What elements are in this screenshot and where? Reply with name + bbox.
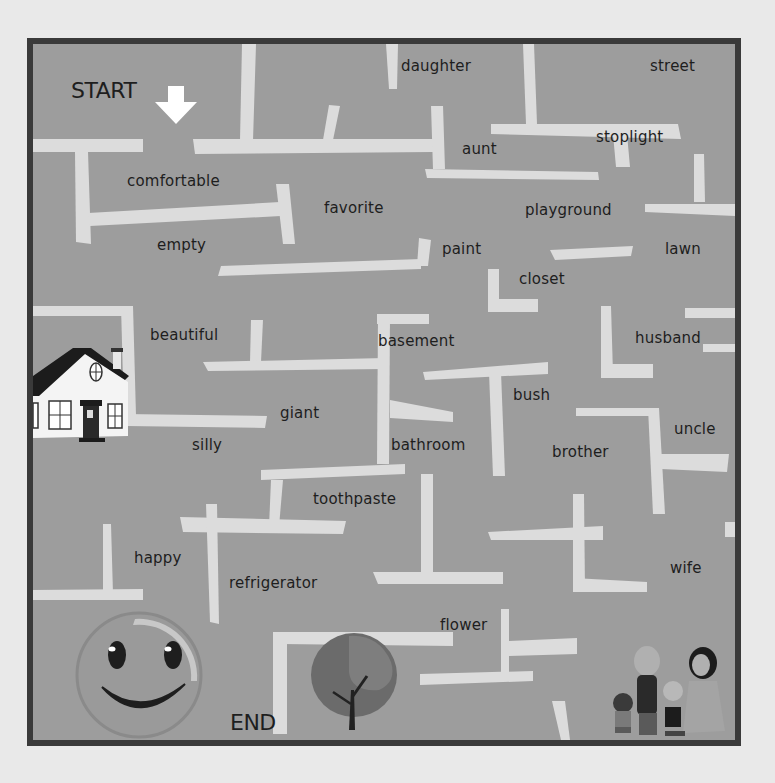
start-label: START — [71, 78, 136, 103]
maze-word-wife[interactable]: wife — [670, 559, 702, 577]
maze-word-favorite[interactable]: favorite — [324, 199, 384, 217]
house-icon — [33, 346, 133, 450]
maze-word-comfortable[interactable]: comfortable — [127, 172, 220, 190]
maze-word-bush[interactable]: bush — [513, 386, 550, 404]
maze-word-lawn[interactable]: lawn — [665, 240, 701, 258]
maze-word-stoplight[interactable]: stoplight — [596, 128, 663, 146]
maze-word-street[interactable]: street — [650, 57, 695, 75]
maze-word-daughter[interactable]: daughter — [401, 57, 471, 75]
maze-word-bathroom[interactable]: bathroom — [391, 436, 466, 454]
maze-word-refrigerator[interactable]: refrigerator — [229, 574, 317, 592]
maze-word-toothpaste[interactable]: toothpaste — [313, 490, 396, 508]
maze-word-playground[interactable]: playground — [525, 201, 612, 219]
maze-word-brother[interactable]: brother — [552, 443, 609, 461]
family-icon — [603, 641, 733, 745]
smiley-face-icon — [75, 611, 215, 745]
maze-word-basement[interactable]: basement — [378, 332, 455, 350]
maze-word-beautiful[interactable]: beautiful — [150, 326, 218, 344]
maze-word-happy[interactable]: happy — [134, 549, 182, 567]
maze-word-uncle[interactable]: uncle — [674, 420, 716, 438]
maze-word-silly[interactable]: silly — [192, 436, 222, 454]
maze-word-giant[interactable]: giant — [280, 404, 319, 422]
maze-word-empty[interactable]: empty — [157, 236, 206, 254]
maze-word-flower[interactable]: flower — [440, 616, 488, 634]
tree-icon — [309, 632, 399, 746]
end-label: END — [230, 710, 276, 735]
maze-word-aunt[interactable]: aunt — [462, 140, 497, 158]
arrow-down-icon — [153, 86, 199, 130]
maze-word-paint[interactable]: paint — [442, 240, 481, 258]
maze-word-closet[interactable]: closet — [519, 270, 565, 288]
maze-word-husband[interactable]: husband — [635, 329, 701, 347]
maze-board: START END daughter street aunt stoplight… — [27, 38, 741, 746]
